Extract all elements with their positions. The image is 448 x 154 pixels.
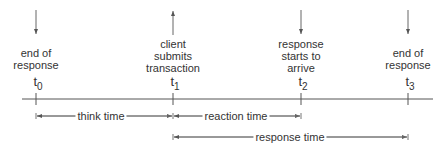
time-marker-t2: t2 (298, 74, 307, 92)
interval-label-think-time: think time (75, 110, 126, 122)
event-label-t3: end of response (385, 47, 430, 71)
time-marker-t3: t3 (405, 74, 414, 92)
timeline-diagram (0, 0, 448, 154)
event-label-t0: end of response (13, 47, 58, 71)
interval-label-reaction-time: reaction time (203, 110, 270, 122)
time-marker-t0: t0 (33, 74, 42, 92)
event-label-t1: client submits transaction (146, 38, 200, 74)
time-marker-t1: t1 (170, 74, 179, 92)
event-label-t2: response starts to arrive (278, 38, 323, 74)
interval-label-response-time: response time (253, 131, 326, 143)
